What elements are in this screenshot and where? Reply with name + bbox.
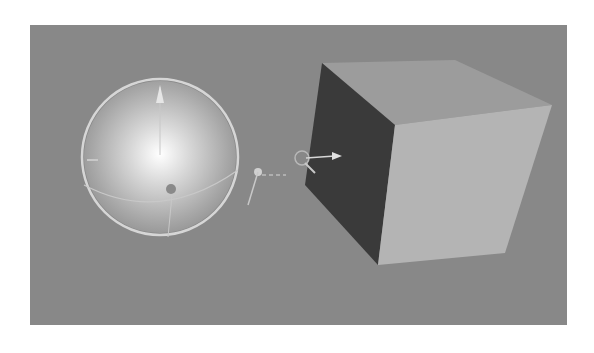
cube-object[interactable] xyxy=(305,60,552,265)
light-handle[interactable] xyxy=(248,168,286,205)
pivot-dot xyxy=(166,184,176,194)
3d-viewport[interactable] xyxy=(30,25,567,325)
cube-front-face xyxy=(378,105,552,265)
sphere-object[interactable] xyxy=(82,79,238,237)
